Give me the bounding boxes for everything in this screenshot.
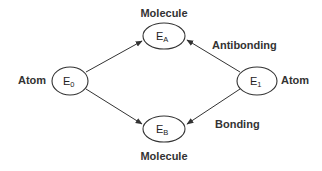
node-e1-label: Atom bbox=[281, 74, 309, 86]
node-e0: E0 Atom bbox=[18, 67, 88, 95]
node-eb-label: Molecule bbox=[140, 150, 187, 162]
antibonding-label: Antibonding bbox=[212, 39, 277, 51]
mo-diagram: E0 Atom EA Molecule E1 Atom EB Molecule … bbox=[0, 0, 322, 171]
node-e1: E1 Atom bbox=[237, 67, 309, 95]
arrow-e0-to-ea bbox=[86, 41, 142, 72]
bonding-label: Bonding bbox=[215, 118, 260, 130]
arrow-e0-to-eb bbox=[86, 89, 142, 124]
node-e0-label: Atom bbox=[18, 74, 46, 86]
node-eb: EB Molecule bbox=[140, 116, 187, 162]
node-ea-label: Molecule bbox=[140, 7, 187, 19]
node-ea: EA Molecule bbox=[140, 7, 187, 49]
